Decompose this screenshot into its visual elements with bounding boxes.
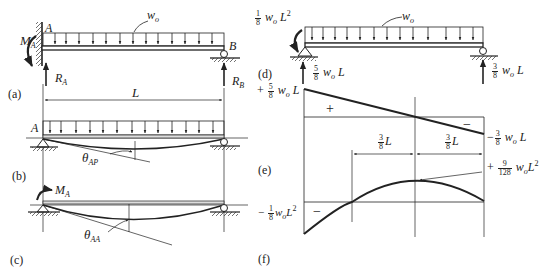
panel-a-reaction-b-label: RB <box>232 75 244 90</box>
panel-b-point-a-label: A <box>31 122 38 134</box>
dimension-right-label: 38L <box>444 134 459 151</box>
panel-d-moment-label: 18 wo L2 <box>254 10 291 27</box>
span-length-label: L <box>132 86 139 99</box>
panel-b-tag: (b) <box>12 170 26 182</box>
panel-c-angle-label: θAA <box>84 228 100 244</box>
panel-c-beam <box>30 201 248 220</box>
panel-c-roller-support-b <box>210 205 240 217</box>
shear-positive-region: + <box>326 102 334 116</box>
panel-d-tag: (d) <box>258 68 272 80</box>
shear-max-label: + 58 wo L <box>257 83 299 100</box>
panel-c-moment-arrow <box>37 190 52 200</box>
panel-d-reaction-a-label: 58 wo L <box>312 65 345 82</box>
panel-a-point-b-label: B <box>229 40 236 52</box>
panel-f-tag: (f) <box>258 253 270 265</box>
panel-b-distributed-load <box>43 121 224 135</box>
panel-d-load-label: wo <box>402 10 414 25</box>
shear-negative-region: − <box>463 118 471 132</box>
moment-max-label: + 9128 woL2 <box>487 160 538 177</box>
panel-a-beam <box>42 46 224 50</box>
panel-d-beam <box>305 43 483 47</box>
panel-a-point-a-label: A <box>45 22 52 34</box>
panel-a-moment-label: MA <box>20 34 36 50</box>
panel-a-distributed-load <box>43 21 224 46</box>
panel-d-distributed-load <box>305 17 483 43</box>
dimension-left-label: 38L <box>377 134 392 151</box>
moment-negative-region: − <box>313 205 321 219</box>
panel-d-reaction-b-label: 38 wo L <box>491 63 524 80</box>
panel-a-tag: (a) <box>8 88 21 100</box>
panel-e-tag: (e) <box>258 164 271 176</box>
panel-a-fixed-wall <box>36 22 42 66</box>
moment-min-label: − 18woL2 <box>258 205 296 222</box>
shear-min-label: −38 wo L <box>487 130 526 147</box>
panel-d-pin-support-a <box>290 47 318 61</box>
panel-c-moment-label: MA <box>55 184 70 199</box>
panel-d-moment-arrow <box>295 30 302 52</box>
panel-a-load-label: wo <box>147 9 159 24</box>
panel-b-angle-label: θAP <box>82 151 98 167</box>
panel-c-tag: (c) <box>10 254 23 266</box>
panel-a-reaction-a-label: RA <box>55 72 67 87</box>
panel-c-pin-support-a <box>28 205 60 216</box>
shear-dimension-lines <box>352 134 484 237</box>
panel-d-roller-support-b <box>470 48 498 61</box>
span-dimension-line <box>43 84 224 232</box>
